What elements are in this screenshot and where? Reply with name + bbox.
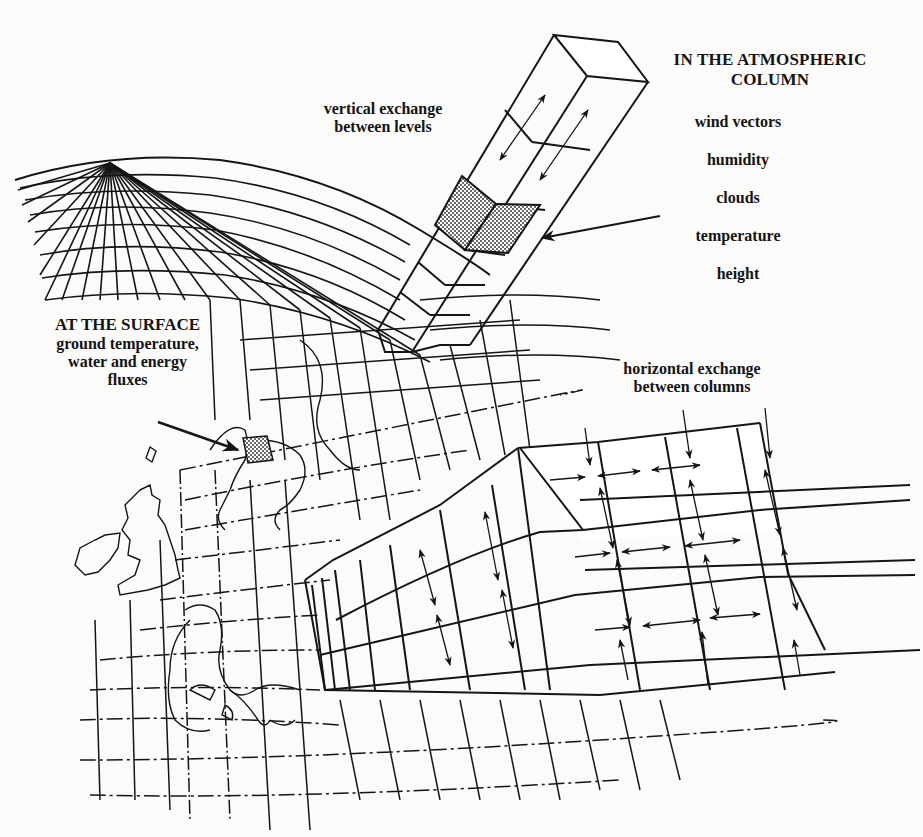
column-variable-clouds: clouds — [668, 189, 808, 207]
column-variable-height: height — [668, 265, 808, 283]
europe-coastline — [75, 340, 360, 731]
vertical-exchange-line1: vertical exchange — [303, 100, 463, 118]
surface-pointer-arrow — [158, 422, 238, 450]
column-variable-wind-vectors: wind vectors — [668, 113, 808, 131]
vertical-exchange-label: vertical exchange between levels — [303, 100, 463, 137]
atmospheric-heading-line1: IN THE ATMOSPHERIC — [645, 50, 895, 70]
horizontal-exchange-label: horizontal exchange between columns — [592, 360, 792, 397]
surface-line2: water and energy — [20, 353, 235, 371]
horizontal-exchange-block — [305, 423, 920, 695]
surface-line1: ground temperature, — [20, 335, 235, 353]
column-pointer-arrow — [542, 216, 660, 238]
vertical-exchange-arrows — [500, 95, 588, 180]
surface-line3: fluxes — [20, 371, 235, 389]
column-variable-humidity: humidity — [668, 151, 808, 169]
surface-label: AT THE SURFACE ground temperature, water… — [20, 315, 235, 390]
atmospheric-column-heading: IN THE ATMOSPHERIC COLUMN — [645, 50, 895, 89]
surface-grid-cell — [243, 436, 273, 463]
vertical-exchange-line2: between levels — [303, 118, 463, 136]
horizontal-exchange-line2: between columns — [592, 378, 792, 396]
horizontal-exchange-line1: horizontal exchange — [592, 360, 792, 378]
surface-heading: AT THE SURFACE — [20, 315, 235, 335]
atmospheric-column — [378, 35, 648, 352]
atmospheric-heading-line2: COLUMN — [645, 70, 895, 90]
column-variable-temperature: temperature — [668, 227, 808, 245]
